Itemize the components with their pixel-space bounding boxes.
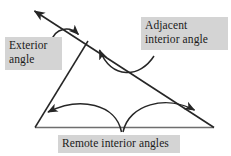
- geometry-figure: Exterior angle Adjacent interior angle R…: [0, 0, 231, 156]
- label-exterior-angle: Exterior angle: [5, 37, 62, 70]
- adjacent-interior-angle-arc: [100, 50, 155, 73]
- label-adjacent-interior-angle: Adjacent interior angle: [141, 17, 228, 50]
- label-remote-interior-angles: Remote interior angles: [58, 135, 180, 153]
